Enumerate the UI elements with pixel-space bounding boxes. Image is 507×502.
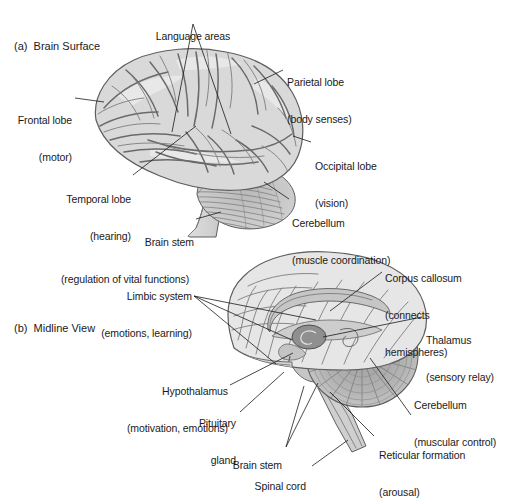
label-frontal-lobe: Frontal lobe (motor)	[0, 90, 72, 175]
label-parietal-lobe-line1: Parietal lobe	[287, 76, 397, 88]
label-language-areas-line1: Language areas	[133, 30, 253, 42]
label-reticular-formation-line1: Reticular formation	[379, 449, 503, 461]
label-corpus-callosum-line1: Corpus callosum	[385, 272, 505, 284]
label-parietal-lobe-line2: (body senses)	[287, 113, 397, 125]
label-pituitary-gland-line1: Pituitary	[136, 417, 236, 429]
label-reticular-formation: Reticular formation (arousal)	[379, 425, 503, 502]
label-reticular-formation-line2: (arousal)	[379, 486, 503, 498]
label-limbic-system-line1: Limbic system	[56, 290, 192, 302]
label-brain-stem-a-line1: Brain stem	[56, 236, 194, 248]
label-limbic-system: Limbic system (emotions, learning)	[56, 266, 192, 351]
thalamus-shape	[292, 325, 326, 349]
label-limbic-system-line2: (emotions, learning)	[56, 327, 192, 339]
label-temporal-lobe-line1: Temporal lobe	[35, 193, 131, 205]
label-cerebellum-b-line1: Cerebellum	[414, 399, 507, 411]
label-parietal-lobe: Parietal lobe (body senses)	[287, 52, 397, 137]
label-thalamus-line1: Thalamus	[426, 334, 507, 346]
label-spinal-cord-line1: Spinal cord	[222, 480, 306, 492]
label-frontal-lobe-line2: (motor)	[0, 151, 72, 163]
label-occipital-lobe-line1: Occipital lobe	[315, 160, 425, 172]
label-spinal-cord: Spinal cord	[222, 456, 306, 502]
label-language-areas: Language areas	[133, 6, 253, 55]
label-frontal-lobe-line1: Frontal lobe	[0, 114, 72, 126]
label-cerebellum-a-line1: Cerebellum	[292, 217, 442, 229]
panel-a-title: (a) Brain Surface	[14, 40, 100, 53]
